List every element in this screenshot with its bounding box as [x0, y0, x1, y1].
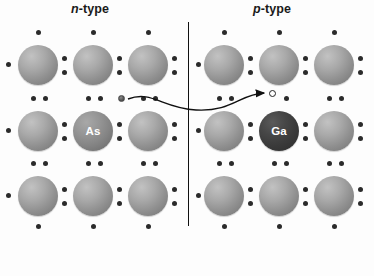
electron-dot — [222, 30, 227, 35]
p-type-region-label: p-type — [253, 2, 291, 16]
electron-dot — [327, 96, 332, 101]
electron-dot — [31, 96, 36, 101]
electron-dot — [172, 122, 177, 127]
electron-dot — [327, 161, 332, 166]
electron-dot — [98, 161, 103, 166]
electron-dot — [86, 96, 91, 101]
n-type-label-rest: -type — [79, 2, 109, 16]
electron-dot — [117, 70, 122, 75]
electron-dot — [141, 161, 146, 166]
legend: Si atom Electron Hole Free electron — [0, 228, 374, 276]
electron-dot — [146, 30, 151, 35]
electron-dot — [284, 96, 289, 101]
electron-dot — [153, 96, 158, 101]
electron-dot — [62, 136, 67, 141]
electron-dot — [303, 70, 308, 75]
electron-dot — [117, 136, 122, 141]
si-atom — [314, 176, 354, 216]
electron-dot — [358, 187, 363, 192]
electron-dot — [358, 136, 363, 141]
electron-dot — [62, 56, 67, 61]
electron-dot — [172, 70, 177, 75]
electron-dot — [248, 187, 253, 192]
si-atom — [73, 176, 113, 216]
electron-dot — [248, 136, 253, 141]
electron-dot — [43, 161, 48, 166]
arrow-path — [128, 93, 264, 110]
electron-dot — [172, 136, 177, 141]
electron-dot — [248, 56, 253, 61]
electron-dot — [229, 96, 234, 101]
electron-dot — [358, 201, 363, 206]
electron-dot — [303, 201, 308, 206]
electron-dot — [117, 201, 122, 206]
electron-dot — [98, 96, 103, 101]
electron-dot — [91, 30, 96, 35]
electron-dot — [62, 187, 67, 192]
electron-dot — [303, 136, 308, 141]
si-atom — [18, 111, 58, 151]
junction-divider-line — [188, 22, 189, 226]
electron-dot — [217, 161, 222, 166]
electron-dot — [332, 30, 337, 35]
n-type-label-italic: n — [71, 2, 79, 16]
si-atom — [204, 111, 244, 151]
electron-dot — [196, 62, 201, 67]
electron-dot — [43, 96, 48, 101]
electron-dot — [153, 161, 158, 166]
electron-dot — [172, 56, 177, 61]
si-atom — [73, 45, 113, 85]
electron-dot — [6, 62, 11, 67]
electron-dot — [358, 70, 363, 75]
electron-dot — [6, 193, 11, 198]
electron-dot — [248, 201, 253, 206]
electron-dot — [31, 161, 36, 166]
si-atom — [128, 176, 168, 216]
electron-dot — [284, 161, 289, 166]
electron-dot — [86, 161, 91, 166]
electron-dot — [303, 187, 308, 192]
electron-dot — [339, 161, 344, 166]
electron-dot — [277, 30, 282, 35]
si-atom — [314, 45, 354, 85]
electron-dot — [62, 122, 67, 127]
electron-dot — [141, 96, 146, 101]
arsenic-dopant-atom: As — [73, 111, 113, 151]
arsenic-atom-label: As — [73, 125, 113, 137]
n-type-region-label: n-type — [71, 2, 109, 16]
electron-dot — [117, 56, 122, 61]
si-atom — [128, 45, 168, 85]
electron-dot — [36, 30, 41, 35]
electron-dot — [6, 128, 11, 133]
electron-dot — [303, 56, 308, 61]
p-type-label-rest: -type — [261, 2, 291, 16]
free-electron-carrier — [118, 95, 125, 102]
gallium-dopant-atom: Ga — [259, 111, 299, 151]
gallium-atom-label: Ga — [259, 125, 299, 137]
electron-dot — [196, 128, 201, 133]
si-atom — [128, 111, 168, 151]
semiconductor-diagram: n-type p-type As Ga — [0, 0, 374, 276]
electron-dot — [172, 201, 177, 206]
electron-dot — [229, 161, 234, 166]
hole-carrier — [269, 90, 276, 97]
electron-dot — [358, 122, 363, 127]
electron-dot — [339, 96, 344, 101]
si-atom — [259, 176, 299, 216]
si-atom — [204, 176, 244, 216]
electron-dot — [248, 122, 253, 127]
electron-dot — [358, 56, 363, 61]
electron-dot — [196, 193, 201, 198]
si-atom — [204, 45, 244, 85]
electron-dot — [62, 70, 67, 75]
electron-dot — [62, 201, 67, 206]
electron-dot — [272, 161, 277, 166]
si-atom — [314, 111, 354, 151]
electron-dot — [117, 122, 122, 127]
si-atom — [18, 176, 58, 216]
electron-dot — [117, 187, 122, 192]
electron-dot — [248, 70, 253, 75]
p-type-label-italic: p — [253, 2, 261, 16]
si-atom — [18, 45, 58, 85]
electron-dot — [217, 96, 222, 101]
